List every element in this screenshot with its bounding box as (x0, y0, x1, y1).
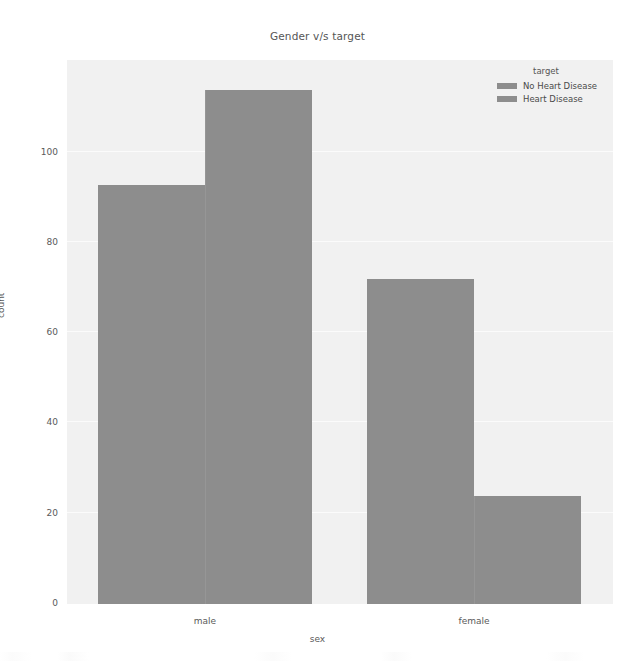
chart-legend: target No Heart Disease Heart Disease (497, 66, 613, 105)
bar-female-no-heart-disease (367, 279, 474, 604)
x-axis-label: sex (0, 634, 635, 644)
bar-female-heart-disease (474, 496, 581, 604)
chart-figure: Gender v/s target 0 20 40 60 80 100 coun… (0, 0, 635, 661)
y-tick-label-100: 100 (14, 147, 58, 157)
bar-male-heart-disease (205, 90, 312, 604)
x-tick-label-male: male (125, 616, 285, 626)
y-tick-label-0: 0 (14, 598, 58, 608)
y-tick-label-40: 40 (14, 417, 58, 427)
chart-title: Gender v/s target (0, 30, 635, 42)
plot-area (67, 60, 613, 604)
legend-title: target (479, 66, 613, 76)
x-tick-label-female: female (394, 616, 554, 626)
bar-male-no-heart-disease (98, 185, 205, 604)
y-tick-label-80: 80 (14, 237, 58, 247)
legend-label-heart-disease: Heart Disease (523, 94, 583, 104)
legend-swatch-icon-no-heart-disease (497, 83, 517, 89)
legend-swatch-icon-heart-disease (497, 96, 517, 102)
legend-item-no-heart-disease: No Heart Disease (497, 79, 613, 92)
scan-artifact (0, 652, 635, 661)
y-tick-label-20: 20 (14, 508, 58, 518)
y-tick-label-60: 60 (14, 327, 58, 337)
y-axis-label: count (0, 293, 6, 318)
legend-label-no-heart-disease: No Heart Disease (523, 81, 597, 91)
legend-item-heart-disease: Heart Disease (497, 92, 613, 105)
gridline-100 (67, 151, 613, 152)
